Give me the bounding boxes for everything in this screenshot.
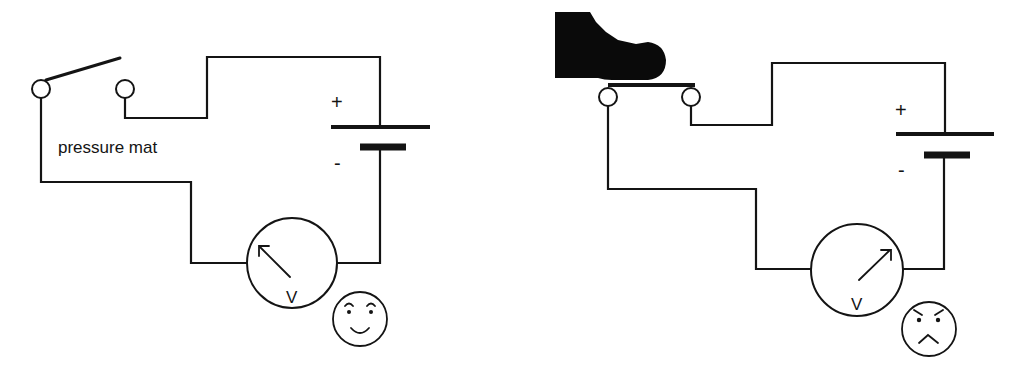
switch-terminal-right: [116, 80, 134, 98]
open-switch-arm: [46, 58, 120, 80]
switch-terminal-left: [599, 88, 617, 106]
battery-negative-sign: -: [334, 152, 341, 174]
right-circuit-wire-top: [691, 63, 945, 134]
left-circuit: pressure mat + - V: [32, 57, 430, 346]
foot-icon: [555, 12, 666, 80]
battery-positive-sign: +: [331, 91, 343, 113]
smiley-face-icon: [333, 292, 387, 346]
battery-negative-sign: -: [898, 159, 905, 181]
voltmeter-icon: V: [811, 224, 903, 316]
voltmeter-symbol: V: [851, 295, 863, 314]
pressure-mat-label: pressure mat: [58, 138, 157, 157]
switch-terminal-left: [32, 80, 50, 98]
left-circuit-wire-bottom-left: [41, 98, 247, 263]
pressure-mat-circuit-diagram: pressure mat + - V: [0, 0, 1024, 379]
left-circuit-wire-bottom-right: [337, 150, 380, 263]
right-circuit: + - V: [555, 12, 994, 356]
voltmeter-symbol: V: [286, 288, 298, 307]
angry-face-icon: [902, 302, 956, 356]
right-circuit-wire-bottom-left: [608, 106, 811, 269]
voltmeter-icon: V: [247, 218, 337, 308]
battery-positive-sign: +: [895, 99, 907, 121]
right-circuit-wire-bottom-right: [902, 158, 944, 269]
switch-terminal-right: [682, 88, 700, 106]
